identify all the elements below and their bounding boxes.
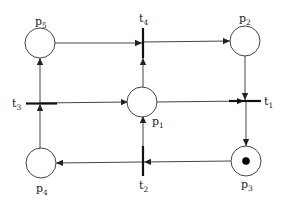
label-p5: p5 bbox=[35, 15, 47, 30]
token-p3 bbox=[242, 157, 250, 165]
arc-t4-p2 bbox=[144, 41, 230, 42]
label-t3: t3 bbox=[12, 97, 21, 112]
place-p4 bbox=[26, 148, 56, 178]
label-p2: p2 bbox=[239, 12, 251, 27]
place-p2 bbox=[230, 26, 260, 56]
label-t4: t4 bbox=[139, 12, 148, 27]
label-p4: p4 bbox=[36, 182, 48, 197]
arc-p3-t2 bbox=[144, 161, 231, 162]
petri-net-diagram: p5 p2 p1 p4 p3 t4 t3 t1 t2 bbox=[0, 0, 284, 202]
label-p3: p3 bbox=[241, 178, 253, 193]
label-t2: t2 bbox=[139, 179, 148, 194]
label-t1: t1 bbox=[264, 95, 273, 110]
place-p1 bbox=[127, 87, 157, 117]
arc-t2-p4 bbox=[56, 162, 142, 163]
place-p5 bbox=[25, 28, 55, 58]
label-p1: p1 bbox=[152, 115, 164, 130]
